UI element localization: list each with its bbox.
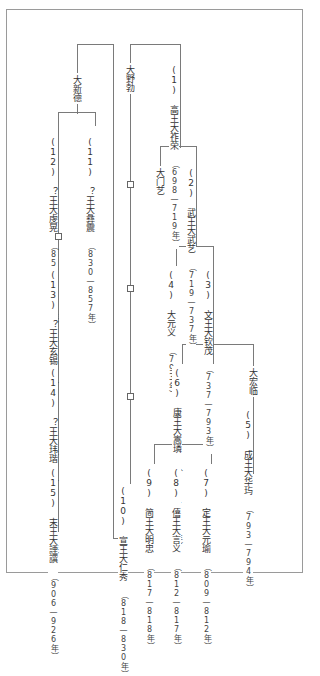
node-9: (9) 简王大明忠 （817—818年）	[144, 466, 154, 652]
unknown-generation-box	[55, 233, 62, 240]
unknown-generation-box	[127, 393, 134, 400]
node-10-xuanwang: (10) 宣王大仁秀 （818—830年）	[118, 484, 128, 676]
node-11: (11) ？王大彝震 （830—857年）	[85, 135, 95, 331]
connector	[113, 44, 114, 539]
connector	[77, 44, 114, 45]
connector	[182, 344, 183, 364]
connector	[154, 444, 155, 464]
node-3-wenwang: (3) 文王大钦茂 （737—793年）	[203, 268, 213, 454]
node-15-mowang: (15) 末王大諲譔 （906—926年）	[48, 466, 58, 662]
connector	[58, 112, 96, 113]
node-2-wuwang: (2) 武王大武艺 （719—737年）	[186, 166, 196, 352]
connector	[58, 112, 59, 532]
unknown-generation-box	[127, 285, 134, 292]
node-1-gaowang: (1) 高王大祚荣 （698—719年）	[169, 63, 179, 249]
node-da-yebo: 大野勃	[125, 63, 135, 94]
node-5-chengwang: (5) 成王大华玙 （793—794年）	[243, 408, 253, 594]
connector	[253, 344, 254, 474]
connector	[196, 146, 197, 246]
connector	[130, 44, 131, 484]
connector	[95, 112, 96, 126]
connector	[180, 44, 181, 148]
unknown-generation-box	[127, 181, 134, 188]
connector	[160, 146, 161, 166]
connector	[176, 246, 177, 266]
node-7: (7) 定王大元瑜 （809—812年）	[201, 466, 211, 652]
connector	[130, 44, 181, 45]
node-8: (8) 僖王大言义 （812—817年）	[171, 466, 181, 652]
node-da-menyi: 大门艺	[155, 166, 165, 197]
node-da-xinde: 大新德	[72, 73, 82, 104]
node-da-hongling: 大宏临	[248, 366, 258, 397]
connector	[213, 246, 214, 364]
